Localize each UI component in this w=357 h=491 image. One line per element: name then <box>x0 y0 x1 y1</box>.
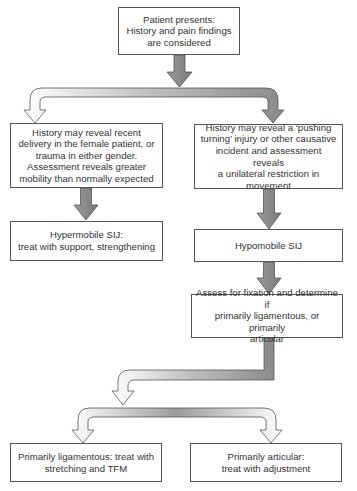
arrow-left-down <box>74 188 98 220</box>
start-node: Patient presents: History and pain findi… <box>118 7 240 55</box>
assess-node: Assess for fixation and determine if pri… <box>191 294 343 338</box>
assess-text: Assess for fixation and determine if pri… <box>196 287 338 345</box>
arrow-right-down <box>257 189 281 229</box>
arrow-start-down <box>167 55 192 87</box>
hypomobile-text: Hypomobile SIJ <box>235 240 302 252</box>
arrow-split-top <box>24 88 284 123</box>
right-history-node: History may reveal a ‘pushing turning’ i… <box>194 124 343 189</box>
hypermobile-node: Hypermobile SIJ: treat with support, str… <box>10 221 163 261</box>
articular-node: Primarily articular: treat with adjustme… <box>190 443 342 482</box>
articular-text: Primarily articular: treat with adjustme… <box>222 451 311 474</box>
hypomobile-node: Hypomobile SIJ <box>194 229 343 262</box>
ligamentous-node: Primarily ligamentous: treat with stretc… <box>10 443 162 482</box>
left-history-text: History may reveal recent delivery in th… <box>19 127 155 185</box>
hypermobile-text: Hypermobile SIJ: treat with support, str… <box>18 229 155 252</box>
arrow-split-bottom <box>72 408 282 443</box>
arrow-assess-bend <box>112 338 280 405</box>
ligamentous-text: Primarily ligamentous: treat with stretc… <box>18 451 154 474</box>
right-history-text: History may reveal a ‘pushing turning’ i… <box>199 122 338 192</box>
start-node-text: Patient presents: History and pain findi… <box>126 14 231 49</box>
left-history-node: History may reveal recent delivery in th… <box>10 123 163 188</box>
